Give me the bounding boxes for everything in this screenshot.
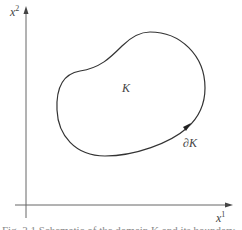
y-axis-label: x2 xyxy=(10,5,19,18)
figure-caption: Fig. 3.1 Schematic of the domain K and i… xyxy=(2,224,235,230)
region-label: K xyxy=(122,82,130,94)
y-axis-arrow-icon xyxy=(24,6,29,14)
x-axis-label-sup: 1 xyxy=(221,210,225,219)
y-axis-label-sup: 2 xyxy=(15,4,19,13)
figure: x2 x1 K ∂K Fig. 3.1 Schematic of the dom… xyxy=(0,0,242,230)
x-axis-label: x1 xyxy=(216,211,225,224)
boundary-label: ∂K xyxy=(183,137,197,149)
x-axis-arrow-icon xyxy=(225,203,233,208)
diagram-canvas xyxy=(0,0,242,230)
